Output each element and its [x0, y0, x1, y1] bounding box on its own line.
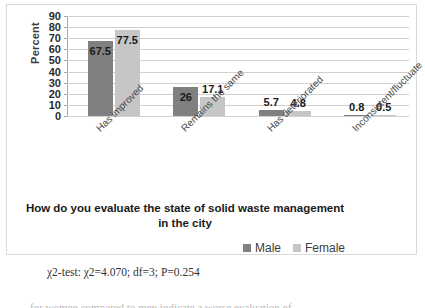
y-tick-label: 90 [29, 11, 61, 21]
x-axis-title-line2: in the city [15, 216, 355, 231]
footer-text-fragment: for women compared to men indicate a wor… [30, 301, 410, 308]
y-tickmark [64, 38, 67, 39]
legend-label-male: Male [255, 241, 281, 255]
y-tickmark [64, 116, 67, 117]
y-tickmark [64, 105, 67, 106]
bar-value-label: 77.5 [111, 35, 144, 46]
y-tickmark [64, 49, 67, 50]
y-tick-label: 60 [29, 44, 61, 54]
y-tickmark [64, 72, 67, 73]
y-tick-label: 30 [29, 78, 61, 88]
chi-square-caption: χ2-test: χ2=4.070; df=3; P=0.254 [47, 266, 200, 278]
bar-value-label: 67.5 [84, 46, 117, 57]
legend-swatch-male-icon [243, 244, 251, 252]
legend-item-male: Male [243, 241, 281, 255]
legend-swatch-female-icon [293, 244, 301, 252]
y-tick-label: 20 [29, 89, 61, 99]
chart-legend: Male Female [243, 241, 345, 255]
legend-label-female: Female [305, 241, 345, 255]
y-axis-tick-labels: 9080706050403020100 [29, 11, 61, 115]
y-axis-line [67, 16, 68, 116]
y-tick-label: 10 [29, 100, 61, 110]
y-tickmark [64, 60, 67, 61]
y-tickmark [64, 83, 67, 84]
y-tick-label: 70 [29, 33, 61, 43]
y-tickmark [64, 27, 67, 28]
y-tickmark [64, 94, 67, 95]
chart-container: Percent 9080706050403020100 67.577.5Has … [6, 4, 417, 255]
plot-area: 67.577.5Has improved2617.1Remains the sa… [67, 16, 409, 116]
gridline [67, 27, 409, 28]
gridline [67, 16, 409, 17]
y-tick-label: 50 [29, 55, 61, 65]
x-axis-title-line1: How do you evaluate the state of solid w… [15, 201, 355, 216]
y-tickmark [64, 16, 67, 17]
legend-item-female: Female [293, 241, 345, 255]
y-tick-label: 0 [29, 111, 61, 121]
y-tick-label: 40 [29, 67, 61, 77]
y-tick-label: 80 [29, 22, 61, 32]
x-axis-title: How do you evaluate the state of solid w… [15, 201, 355, 231]
